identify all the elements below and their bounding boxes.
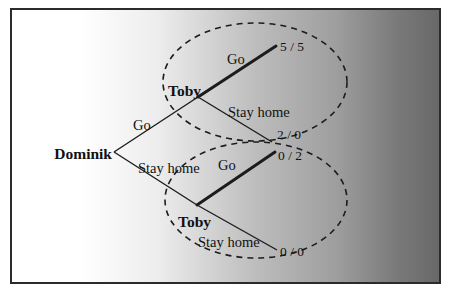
bottom-node-player-label: Toby [178,213,211,230]
root-stayhome-label: Stay home [138,160,200,176]
top-stayhome-label: Stay home [228,104,290,120]
game-tree-diagram: Dominik Toby Toby Go Stay home Go Stay h… [0,0,449,293]
bottom-go-label: Go [218,157,236,173]
payoff-stay-stay: 0 / 0 [280,244,304,259]
payoff-stay-go: 0 / 2 [278,148,302,163]
tree-canvas: Dominik Toby Toby Go Stay home Go Stay h… [0,0,449,293]
top-node-player-label: Toby [168,82,201,99]
payoff-go-stay: 2 / 0 [277,127,301,142]
payoff-go-go: 5 / 5 [280,39,304,54]
bottom-stayhome-label: Stay home [198,234,260,250]
top-go-label: Go [227,51,245,67]
root-player-label: Dominik [54,145,112,162]
branch-root-go-line [114,97,198,152]
branch-bottom-go-line-bold [197,152,275,205]
root-go-label: Go [133,117,151,133]
